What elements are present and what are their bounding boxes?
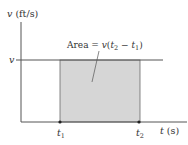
v-level-label: v	[9, 54, 15, 65]
x-axis-label: t (s)	[160, 125, 179, 136]
t2-point	[137, 120, 140, 123]
t2-label: t2	[136, 127, 144, 140]
diagram-canvas: v (ft/s) v Area = v(t2 − t1) t1 t2 t (s)	[0, 0, 188, 145]
t1-point	[58, 120, 61, 123]
shaded-area-region	[60, 60, 140, 122]
area-label: Area = v(t2 − t1)	[66, 40, 143, 52]
velocity-time-diagram: v (ft/s) v Area = v(t2 − t1) t1 t2 t (s)	[0, 0, 188, 145]
y-axis-label: v (ft/s)	[7, 8, 38, 19]
t1-label: t1	[57, 127, 65, 140]
